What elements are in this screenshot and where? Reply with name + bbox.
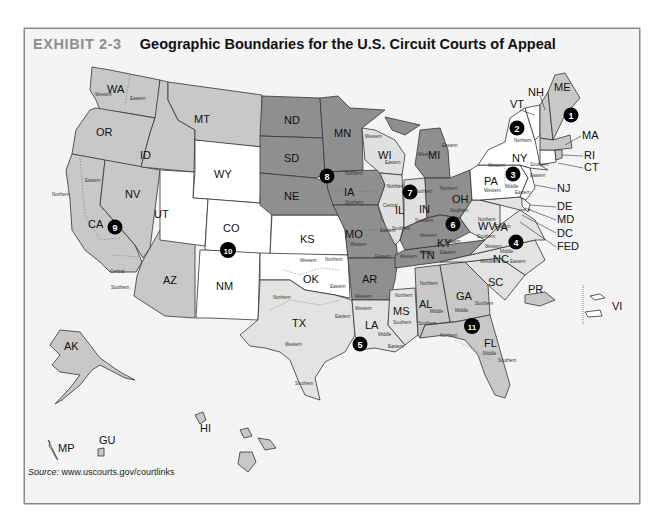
svg-text:Eastern: Eastern (388, 344, 404, 349)
svg-text:SC: SC (488, 276, 503, 288)
svg-text:Northern: Northern (440, 186, 458, 191)
svg-text:ME: ME (554, 81, 571, 93)
svg-text:Western: Western (420, 233, 437, 238)
svg-text:Eastern: Eastern (380, 228, 396, 233)
svg-text:Eastern: Eastern (440, 250, 456, 255)
svg-text:Eastern: Eastern (385, 160, 401, 165)
svg-text:8: 8 (324, 172, 329, 182)
svg-text:10: 10 (224, 247, 233, 256)
state-ri (555, 150, 562, 160)
svg-text:2: 2 (514, 124, 519, 134)
svg-text:VI: VI (612, 300, 622, 312)
source-prefix: Source: (28, 467, 59, 477)
svg-text:Southern: Southern (475, 301, 494, 306)
svg-text:Southern: Southern (345, 200, 364, 205)
svg-text:NJ: NJ (557, 182, 570, 194)
svg-text:Western: Western (484, 188, 501, 193)
svg-text:WY: WY (214, 168, 232, 180)
svg-text:Southern: Southern (295, 381, 314, 386)
svg-text:RI: RI (584, 149, 595, 161)
svg-text:OR: OR (96, 126, 113, 138)
svg-text:Western: Western (95, 92, 112, 97)
svg-text:Western: Western (355, 306, 372, 311)
svg-text:Middle: Middle (378, 332, 392, 337)
svg-text:ND: ND (284, 114, 300, 126)
svg-text:11: 11 (468, 323, 477, 332)
svg-text:MD: MD (557, 213, 574, 225)
svg-text:Eastern: Eastern (530, 173, 546, 178)
svg-text:FED: FED (557, 240, 579, 252)
svg-text:LA: LA (365, 319, 379, 331)
svg-text:Northern: Northern (52, 192, 70, 197)
state-gu (98, 448, 104, 456)
svg-text:Eastern: Eastern (442, 143, 458, 148)
svg-text:NY: NY (512, 152, 528, 164)
svg-text:Northern: Northern (273, 295, 291, 300)
svg-text:KS: KS (300, 233, 315, 245)
svg-text:Middle: Middle (483, 351, 497, 356)
svg-text:Southern: Southern (477, 234, 496, 239)
svg-text:PA: PA (484, 175, 499, 187)
svg-text:Northern: Northern (440, 333, 458, 338)
source-url: www.uscourts.gov/courtlinks (62, 467, 175, 477)
svg-text:Northern: Northern (415, 189, 433, 194)
svg-text:Central: Central (110, 269, 125, 274)
svg-text:OH: OH (452, 193, 469, 205)
state-hi (195, 412, 276, 472)
svg-text:Eastern: Eastern (510, 259, 526, 264)
svg-text:GA: GA (456, 290, 473, 302)
svg-text:DE: DE (557, 200, 572, 212)
svg-text:Western: Western (350, 242, 367, 247)
svg-text:Southern: Southern (415, 218, 434, 223)
svg-text:Northern: Northern (395, 293, 413, 298)
svg-text:CT: CT (584, 161, 599, 173)
state-ak (50, 330, 135, 404)
svg-text:Northern: Northern (345, 171, 363, 176)
svg-text:MS: MS (393, 305, 410, 317)
svg-text:HI: HI (200, 422, 211, 434)
state-vi (585, 294, 605, 317)
svg-text:Eastern: Eastern (330, 284, 346, 289)
svg-text:AR: AR (362, 273, 377, 285)
svg-text:NE: NE (284, 190, 299, 202)
svg-text:6: 6 (450, 220, 455, 230)
svg-text:MP: MP (58, 442, 75, 454)
svg-text:MN: MN (334, 127, 351, 139)
svg-text:Middle: Middle (500, 249, 514, 254)
svg-text:Western: Western (285, 342, 302, 347)
svg-text:Western: Western (418, 152, 435, 157)
svg-text:NV: NV (125, 188, 141, 200)
svg-text:NM: NM (216, 280, 233, 292)
svg-text:Southern: Southern (418, 321, 437, 326)
svg-text:MA: MA (582, 129, 599, 141)
svg-text:Eastern: Eastern (335, 314, 351, 319)
svg-text:IN: IN (419, 203, 430, 215)
svg-text:Middle: Middle (455, 308, 469, 313)
svg-text:Southern: Southern (393, 320, 412, 325)
svg-text:Eastern: Eastern (375, 254, 391, 259)
svg-text:Western: Western (300, 258, 317, 263)
svg-text:9: 9 (112, 223, 117, 233)
svg-text:Southern: Southern (450, 208, 469, 213)
svg-text:GU: GU (99, 434, 116, 446)
svg-text:IA: IA (344, 186, 355, 198)
svg-text:Western: Western (365, 134, 382, 139)
circuit-map: WA OR ID MT CA NV AZ UT WY CO NM KS OK N… (0, 0, 656, 512)
svg-text:MO: MO (345, 228, 363, 240)
svg-text:Northern: Northern (325, 257, 343, 262)
svg-text:1: 1 (568, 111, 573, 121)
svg-text:Northern: Northern (387, 184, 405, 189)
svg-text:Eastern: Eastern (515, 190, 531, 195)
svg-text:Northern: Northern (420, 281, 438, 286)
svg-text:Southern: Southern (498, 358, 517, 363)
svg-text:Western: Western (355, 294, 372, 299)
svg-text:4: 4 (513, 238, 518, 248)
svg-text:PR: PR (528, 283, 543, 295)
svg-text:FL: FL (484, 337, 497, 349)
svg-text:Middle: Middle (505, 184, 519, 189)
svg-text:Central: Central (383, 203, 398, 208)
svg-text:Southern: Southern (530, 162, 549, 167)
svg-text:AZ: AZ (163, 274, 177, 286)
svg-text:Eastern: Eastern (130, 96, 146, 101)
svg-text:Eastern: Eastern (495, 224, 511, 229)
